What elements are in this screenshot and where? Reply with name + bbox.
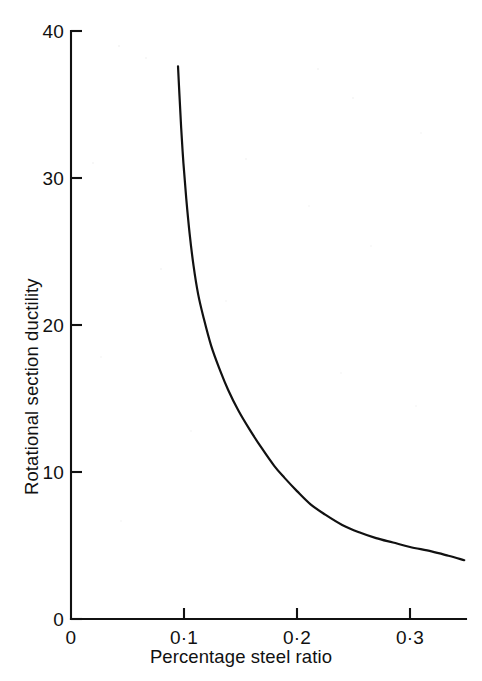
plot-area [0,0,482,681]
x-axis-tick-label: 0·2 [283,628,311,647]
x-axis-tick-label: 0·1 [170,628,198,647]
y-axis-tick-label: 30 [42,169,64,188]
y-axis-ticks [71,31,82,619]
x-axis-ticks [184,608,410,619]
x-axis-title: Percentage steel ratio [0,648,482,667]
y-axis-title: Rotational section ductility [23,13,42,495]
chart-figure: 010203040 00·10·20·3 Percentage steel ra… [0,0,482,681]
x-axis-tick-label: 0·3 [396,628,424,647]
y-axis-tick-label: 10 [42,463,64,482]
x-axis-tick-label: 0 [66,628,77,647]
y-axis-tick-label: 20 [42,316,64,335]
data-series-line [178,66,464,560]
y-axis-tick-label: 40 [42,22,64,41]
y-axis-tick-label: 0 [53,610,64,629]
